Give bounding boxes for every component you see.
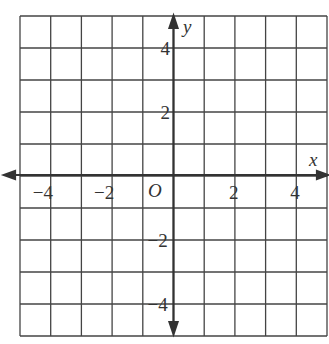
x-tick-label: 2 [229,182,239,203]
x-axis-arrow-left-icon [4,171,15,179]
y-tick-label: 4 [161,38,171,59]
x-axis-label: x [308,149,318,170]
coordinate-grid: −4−22442−2−4 x y O [0,0,329,344]
y-axis-arrow-down-icon [170,322,178,334]
y-tick-label: 2 [161,102,171,123]
origin-label: O [148,180,162,201]
x-tick-label: −4 [33,182,54,203]
y-axis-label: y [181,16,192,37]
y-tick-label: −4 [148,294,169,315]
x-tick-label: −2 [94,182,114,203]
axes [4,16,328,334]
y-tick-label: −2 [148,230,168,251]
x-tick-label: 4 [290,182,300,203]
y-axis-arrow-up-icon [170,16,178,28]
